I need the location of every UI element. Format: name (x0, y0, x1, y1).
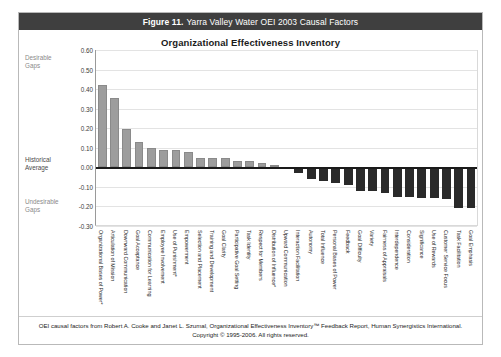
x-axis-tick-label: Use of Rewards (431, 230, 437, 268)
x-label-slot: Communication for Learning (144, 228, 156, 316)
zone-undesirable-line2: Gaps (25, 206, 73, 214)
bar-slot (145, 50, 157, 225)
chart-bar[interactable] (122, 129, 131, 167)
x-axis-tick-label: Empowerment (184, 230, 190, 264)
bar-slot (96, 50, 108, 225)
x-axis-tick-label: Participative Goal Setting (234, 230, 240, 289)
zone-hist-line1: Historical (25, 156, 73, 164)
x-label-slot: Empowerment (181, 228, 193, 316)
x-label-slot: Fairness of Appraisals (379, 228, 391, 316)
chart-bar[interactable] (208, 158, 217, 168)
chart-bar[interactable] (184, 152, 193, 168)
zone-desirable-line1: Desirable (25, 54, 73, 62)
x-label-slot: Training and Development (206, 228, 218, 316)
bar-slot (170, 50, 182, 225)
zone-label-undesirable-gaps: Undesirable Gaps (25, 198, 73, 214)
chart-bar[interactable] (147, 148, 156, 168)
x-axis-tick-label: Consideration (406, 230, 412, 263)
x-label-slot: Distribution of Influence* (268, 228, 280, 316)
x-axis-tick-label: Fairness of Appraisals (382, 230, 388, 282)
x-label-slot: Participative Goal Setting (231, 228, 243, 316)
x-label-slot: Articulation of Mission (107, 228, 119, 316)
y-tick-label: 0.50 (81, 66, 93, 73)
chart-bar[interactable] (368, 167, 377, 190)
x-label-slot: Downward Communication (120, 228, 132, 316)
y-axis: 0.600.500.400.300.200.100.00-0.10-0.20-0… (69, 50, 93, 226)
x-axis-tick-label: Selection and Placement (197, 230, 203, 288)
zone-desirable-line2: Gaps (25, 62, 73, 70)
y-tick-label: 0.60 (81, 47, 93, 54)
x-axis-tick-label: Feedback (345, 230, 351, 253)
chart-bar[interactable] (405, 167, 414, 196)
bar-slot (391, 50, 403, 225)
x-axis-tick-label: Upward Communication (283, 230, 289, 287)
zero-baseline (96, 167, 477, 168)
chart-bar[interactable] (135, 142, 144, 167)
chart-bar[interactable] (393, 167, 402, 196)
bar-slot (440, 50, 452, 225)
chart-bar[interactable] (331, 167, 340, 183)
x-label-slot: Goal Difficulty (354, 228, 366, 316)
x-label-slot: Interaction Facilitation (292, 228, 304, 316)
x-label-slot: Employee Involvement (157, 228, 169, 316)
bar-slot (231, 50, 243, 225)
x-axis-tick-label: Customer Service Focus (443, 230, 449, 288)
chart-bar[interactable] (417, 167, 426, 197)
chart-bar[interactable] (442, 167, 451, 198)
bar-slot (207, 50, 219, 225)
x-axis-tick-label: Organizational Bases of Power* (98, 230, 104, 305)
x-axis-tick-label: Respect for Members (258, 230, 264, 281)
chart-bar[interactable] (172, 150, 181, 168)
chart-bar[interactable] (307, 167, 316, 179)
x-label-slot: Selection and Placement (194, 228, 206, 316)
y-tick-label: 0.20 (81, 125, 93, 132)
y-tick-label: 0.40 (81, 86, 93, 93)
x-label-slot: Task Facilitation (453, 228, 465, 316)
bar-slot (108, 50, 120, 225)
bar-slot (367, 50, 379, 225)
x-label-slot: Goal Emphasis (465, 228, 477, 316)
chart-bar[interactable] (319, 167, 328, 181)
zone-undesirable-line1: Undesirable (25, 198, 73, 206)
bar-slot (330, 50, 342, 225)
x-axis-tick-label: Articulation of Mission (110, 230, 116, 281)
chart-bar[interactable] (454, 167, 463, 208)
chart-bar[interactable] (381, 167, 390, 192)
chart-bar[interactable] (467, 167, 476, 208)
x-axis-tick-label: Interdependence (394, 230, 400, 270)
x-label-slot: Goal Clarity (218, 228, 230, 316)
figure-caption: Yarra Valley Water OEI 2003 Causal Facto… (186, 17, 358, 27)
bar-slot (354, 50, 366, 225)
x-label-slot: Consideration (403, 228, 415, 316)
bar-slot (465, 50, 477, 225)
figure-title-bar: Figure 11. Yarra Valley Water OEI 2003 C… (19, 13, 482, 30)
chart-bar[interactable] (344, 167, 353, 185)
figure-number: Figure 11. (143, 17, 184, 27)
bar-slot (416, 50, 428, 225)
chart-bar[interactable] (196, 158, 205, 168)
bar-slot (194, 50, 206, 225)
bar-slot (379, 50, 391, 225)
y-tick-label: -0.20 (79, 203, 93, 210)
y-tick-label: 0.00 (81, 164, 93, 171)
bar-slot (453, 50, 465, 225)
x-axis-tick-label: Employee Involvement (160, 230, 166, 284)
x-label-slot: Significance (416, 228, 428, 316)
x-axis-labels: Organizational Bases of Power*Articulati… (95, 228, 477, 316)
chart-bar[interactable] (159, 150, 168, 168)
chart-bar[interactable] (221, 158, 230, 168)
x-label-slot: Organizational Bases of Power* (95, 228, 107, 316)
y-tick-label: -0.10 (79, 183, 93, 190)
chart-bar[interactable] (98, 85, 107, 167)
figure-container: Figure 11. Yarra Valley Water OEI 2003 C… (18, 12, 483, 345)
x-label-slot: Upward Communication (280, 228, 292, 316)
x-label-slot: Use of Rewards (428, 228, 440, 316)
x-axis-tick-label: Personal Bases of Power (332, 230, 338, 289)
bar-slot (219, 50, 231, 225)
chart-bar[interactable] (430, 167, 439, 197)
x-axis-tick-label: Task Facilitation (456, 230, 462, 268)
footer-copyright-line: Copyright © 1995-2006. All rights reserv… (27, 330, 474, 339)
bar-slot (256, 50, 268, 225)
chart-bar[interactable] (356, 167, 365, 190)
chart-bar[interactable] (110, 98, 119, 167)
